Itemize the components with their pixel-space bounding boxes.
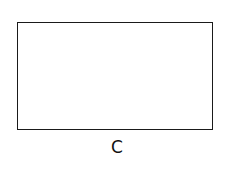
rectangle-shape: [17, 22, 213, 130]
rectangle-label: C: [0, 137, 228, 157]
